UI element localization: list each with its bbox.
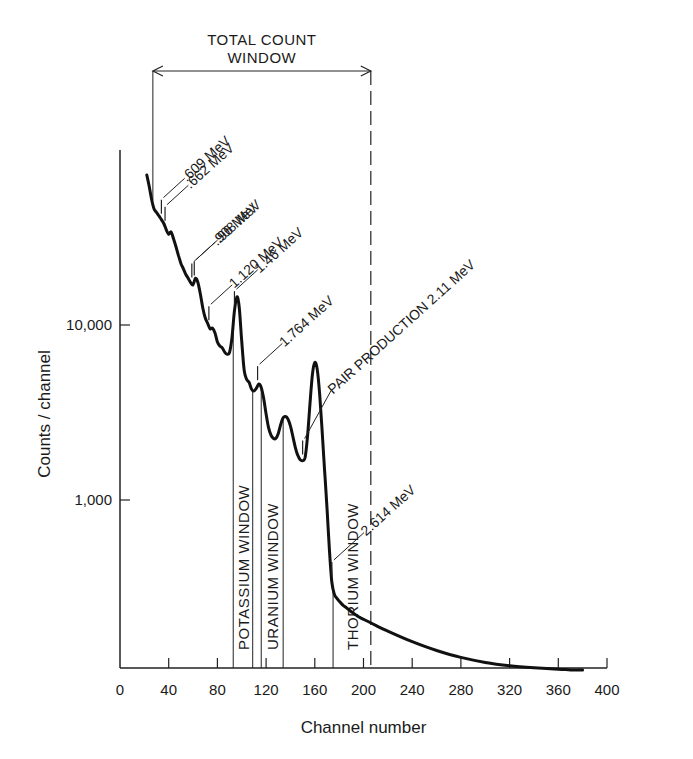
uranium-window-label: URANIUM WINDOW [264, 503, 281, 650]
total-count-window-label-line1: TOTAL COUNT [207, 31, 316, 48]
gamma-spectrum-chart: 04080120160200240280320360400 10,0001,00… [0, 0, 693, 759]
peak-annotation: PAIR PRODUCTION 2.11 MeV [303, 256, 479, 455]
x-tick-label: 280 [448, 681, 473, 698]
x-tick-label: 80 [209, 681, 226, 698]
x-tick-label: 320 [497, 681, 522, 698]
peak-label: PAIR PRODUCTION 2.11 MeV [324, 256, 478, 397]
peak-label: 2.614 MeV [357, 481, 419, 539]
total-count-window-label-line2: WINDOW [227, 49, 296, 66]
potassium-window-label: POTASSIUM WINDOW [235, 484, 252, 650]
x-tick-label: 360 [546, 681, 571, 698]
x-tick-label: 240 [400, 681, 425, 698]
y-axis-title: Counts / channel [35, 350, 54, 478]
x-tick-label: 40 [160, 681, 177, 698]
potassium-window: POTASSIUM WINDOW [233, 324, 252, 668]
x-ticks: 04080120160200240280320360400 [116, 658, 620, 698]
total-count-window: TOTAL COUNT WINDOW [153, 31, 371, 668]
x-tick-label: 120 [254, 681, 279, 698]
leader-line [211, 285, 232, 304]
x-tick-label: 200 [351, 681, 376, 698]
leader-line [260, 343, 283, 364]
leader-line [167, 185, 188, 204]
peak-label: .96 MeV [211, 199, 261, 246]
leader-line [196, 240, 217, 259]
leader-line [163, 178, 184, 197]
x-tick-label: 400 [594, 681, 619, 698]
spectrum-line [147, 175, 583, 670]
peak-annotation: 1.764 MeV [258, 292, 338, 380]
x-tick-label: 160 [302, 681, 327, 698]
peak-annotations: .609 MeV.662 MeV.908 MeV.96 MeV1.120 MeV… [161, 132, 478, 576]
x-tick-label: 0 [116, 681, 124, 698]
x-axis-title: Channel number [301, 718, 427, 737]
y-tick-label: 10,000 [66, 316, 112, 333]
axes [120, 150, 607, 668]
peak-label: 1.764 MeV [276, 292, 338, 350]
y-tick-label: 1,000 [74, 491, 112, 508]
